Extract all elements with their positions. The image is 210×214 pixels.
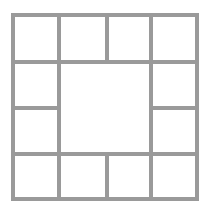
- divider-h-mid-left: [11, 106, 61, 110]
- divider-v-top-3: [149, 13, 153, 64]
- divider-v-top-1: [57, 13, 61, 64]
- cell-r2c4: [149, 60, 199, 110]
- cell-r4c4: [149, 152, 199, 201]
- cell-r4c2: [57, 152, 109, 201]
- cell-r1c4: [149, 13, 199, 64]
- diagram-canvas: [0, 0, 210, 214]
- divider-v-bottom-1: [57, 152, 61, 201]
- divider-v-bottom-3: [149, 152, 153, 201]
- grid-frame: [0, 0, 210, 214]
- divider-v-mid-right: [149, 60, 153, 156]
- cell-r1c2: [57, 13, 109, 64]
- cell-r3c1: [11, 106, 61, 156]
- divider-v-mid-left: [57, 60, 61, 156]
- cell-r1c1: [11, 13, 61, 64]
- divider-v-bottom-2: [105, 152, 109, 201]
- cell-center: [57, 60, 153, 156]
- cell-r3c4: [149, 106, 199, 156]
- divider-v-top-2: [105, 13, 109, 64]
- cell-r4c1: [11, 152, 61, 201]
- cell-r1c3: [105, 13, 153, 64]
- cell-r4c3: [105, 152, 153, 201]
- divider-h-mid-right: [149, 106, 199, 110]
- cell-r2c1: [11, 60, 61, 110]
